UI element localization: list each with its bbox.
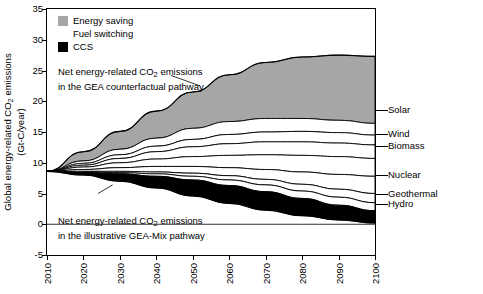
y-tick-label: 20: [9, 95, 43, 106]
annotation-gea-mix-text1: Net energy-related CO2 emissions: [58, 215, 203, 226]
x-tick-mark: [375, 256, 376, 260]
x-tick-mark: [120, 256, 121, 260]
y-tick-label: -5: [9, 249, 43, 260]
right-label-connector: [376, 134, 388, 135]
x-tick-mark: [193, 256, 194, 260]
right-label-biomass: Biomass: [388, 140, 424, 151]
x-tick-mark: [266, 256, 267, 260]
legend-item-fuel-switching: Fuel switching: [58, 27, 133, 40]
annotation-gea-mix-text2: in the illustrative GEA-Mix pathway: [58, 230, 205, 241]
right-label-geothermal: Geothermal: [388, 188, 438, 199]
right-label-connector: [376, 175, 388, 176]
annotation-counterfactual-line2: in the GEA counterfactual pathway: [58, 81, 204, 93]
y-tick-label: 10: [9, 157, 43, 168]
y-tick-label: 30: [9, 34, 43, 45]
annotation-counterfactual-text2: in the GEA counterfactual pathway: [58, 81, 204, 92]
y-tick-label: 35: [9, 3, 43, 14]
x-tick-mark: [83, 256, 84, 260]
right-label-connector: [376, 194, 388, 195]
annotation-counterfactual: Net energy-related CO2 emissions in the …: [58, 66, 204, 93]
legend-swatch-energy-saving: [58, 16, 68, 26]
right-label-connector: [376, 146, 388, 147]
annotation-gea-mix-line1: Net energy-related CO2 emissions: [58, 215, 205, 230]
right-label-connector: [376, 110, 388, 111]
x-tick-mark: [339, 256, 340, 260]
x-tick-mark: [156, 256, 157, 260]
legend-label-energy-saving: Energy saving: [73, 14, 133, 27]
x-tick-mark: [229, 256, 230, 260]
legend-item-ccs: CCS: [58, 40, 133, 53]
right-label-wind: Wind: [388, 128, 410, 139]
y-tick-label: 25: [9, 65, 43, 76]
annotation-counterfactual-line1: Net energy-related CO2 emissions: [58, 66, 204, 81]
right-label-solar: Solar: [388, 104, 410, 115]
legend-swatch-ccs: [58, 42, 68, 52]
y-tick-label: 5: [9, 188, 43, 199]
right-label-connector: [376, 204, 388, 205]
chart-figure: Global energy-related CO2 emissions (Gt-…: [0, 0, 483, 294]
legend-label-ccs: CCS: [73, 40, 93, 53]
y-tick-label: 15: [9, 126, 43, 137]
chart-legend: Energy saving Fuel switching CCS: [58, 14, 133, 53]
right-label-nuclear: Nuclear: [388, 169, 421, 180]
legend-label-fuel-switching: Fuel switching: [73, 27, 133, 40]
annotation-gea-mix-line2: in the illustrative GEA-Mix pathway: [58, 230, 205, 242]
legend-item-energy-saving: Energy saving: [58, 14, 133, 27]
annotation-gea-mix: Net energy-related CO2 emissions in the …: [58, 215, 205, 242]
y-tick-label: 0: [9, 218, 43, 229]
x-tick-mark: [302, 256, 303, 260]
legend-swatch-fuel-switching: [58, 29, 68, 39]
annotation-counterfactual-text1: Net energy-related CO2 emissions: [58, 66, 203, 77]
right-label-hydro: Hydro: [388, 198, 413, 209]
leader-line-gea-mix: [98, 185, 113, 194]
x-tick-mark: [47, 256, 48, 260]
